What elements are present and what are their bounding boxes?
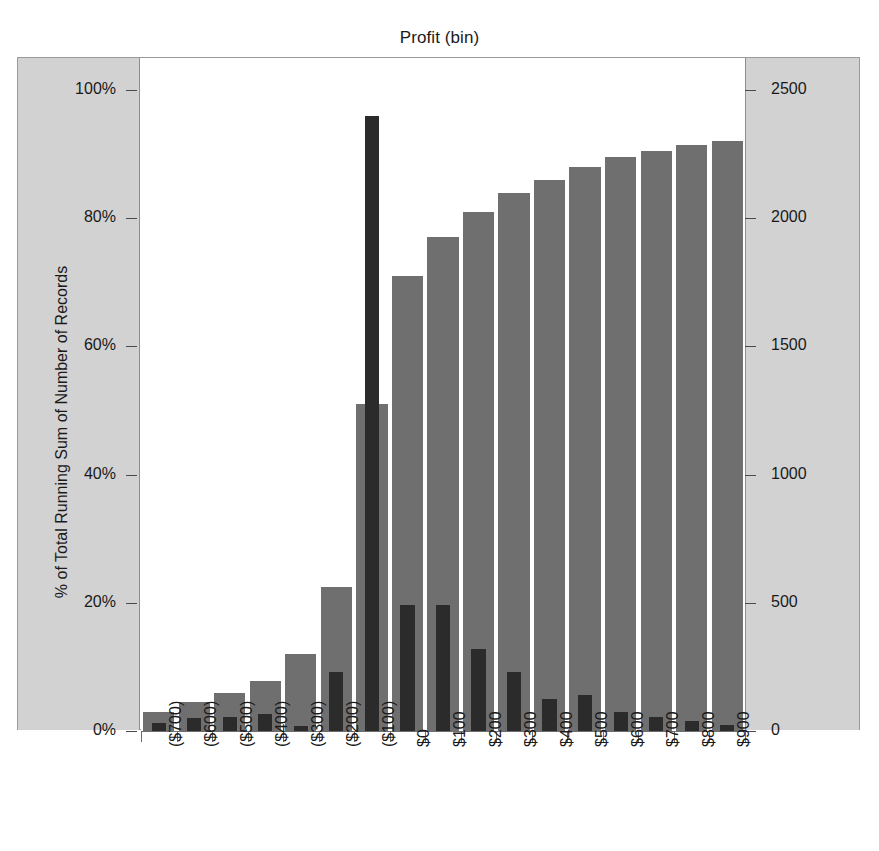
bar-slot [354,58,390,731]
chart-title: Profit (bin) [0,28,879,48]
bar-slot [248,58,284,731]
bar-slot [496,58,532,731]
bar-number-of-records[interactable] [685,721,699,731]
bar-number-of-records[interactable] [400,605,414,731]
bar-running-sum-pct[interactable] [712,141,743,731]
bar-number-of-records[interactable] [152,723,166,731]
bar-number-of-records[interactable] [578,695,592,731]
bar-number-of-records[interactable] [614,712,628,731]
x-tick-label: ($100) [380,701,398,747]
right-tick-label: 1500 [749,337,859,353]
bar-slot [709,58,745,731]
x-tick-label: ($400) [273,701,291,747]
bar-slot [461,58,497,731]
x-tick-label: $500 [593,711,611,747]
x-tick-label: $900 [735,711,753,747]
bar-number-of-records[interactable] [649,717,663,731]
bar-slot [212,58,248,731]
bar-number-of-records[interactable] [258,714,272,731]
x-tick-label: $200 [487,711,505,747]
left-axis-band: % of Total Running Sum of Number of Reco… [18,58,140,730]
x-tick-label: $300 [522,711,540,747]
x-tick-mark [141,731,142,742]
x-tick-label: $0 [415,729,433,747]
x-tick-label: $600 [629,711,647,747]
bar-slot [638,58,674,731]
left-tick-label: 20% [18,594,138,610]
right-tick-label: 1000 [749,466,859,482]
bar-running-sum-pct[interactable] [498,193,529,731]
bar-slot [425,58,461,731]
x-axis-line [141,731,745,732]
x-tick-label: ($200) [344,701,362,747]
right-tick-label: 2500 [749,81,859,97]
bar-slot [532,58,568,731]
bar-running-sum-pct[interactable] [534,180,565,731]
bar-slot [390,58,426,731]
left-tick-label: 40% [18,466,138,482]
left-tick-label: 60% [18,337,138,353]
bar-slot [319,58,355,731]
x-tick-label: $100 [451,711,469,747]
bar-slot [567,58,603,731]
bar-slot [674,58,710,731]
x-tick-label: ($600) [202,701,220,747]
x-tick-label: ($500) [238,701,256,747]
bar-running-sum-pct[interactable] [605,157,636,731]
left-tick-label: 0% [18,722,138,738]
bar-number-of-records[interactable] [542,699,556,731]
bar-number-of-records[interactable] [365,116,379,731]
bar-number-of-records[interactable] [436,605,450,731]
right-tick-label: 2000 [749,209,859,225]
bar-number-of-records[interactable] [507,672,521,731]
bar-slot [177,58,213,731]
bar-number-of-records[interactable] [329,672,343,731]
right-tick-label: 500 [749,594,859,610]
x-tick-label: ($700) [167,701,185,747]
x-tick-label: $800 [700,711,718,747]
bar-running-sum-pct[interactable] [569,167,600,731]
x-tick-label: $700 [664,711,682,747]
right-axis-band: Number of Records [745,58,859,730]
left-tick-label: 100% [18,81,138,97]
bar-number-of-records[interactable] [471,649,485,731]
bar-slot [141,58,177,731]
chart-root: Profit (bin) % of Total Running Sum of N… [0,0,879,851]
left-axis-title: % of Total Running Sum of Number of Reco… [53,102,71,762]
bar-running-sum-pct[interactable] [676,145,707,732]
bar-slot [283,58,319,731]
bar-number-of-records[interactable] [187,718,201,731]
x-tick-label: $400 [558,711,576,747]
plot-area [141,58,745,731]
bar-running-sum-pct[interactable] [641,151,672,731]
left-tick-label: 80% [18,209,138,225]
bar-number-of-records[interactable] [223,717,237,731]
right-tick-label: 0 [749,722,859,738]
x-tick-label: ($300) [309,701,327,747]
bar-slot [603,58,639,731]
